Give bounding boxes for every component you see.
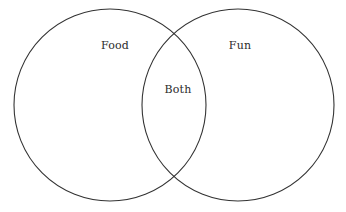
venn-diagram-canvas bbox=[0, 0, 346, 212]
venn-label-intersection: Both bbox=[164, 84, 191, 95]
venn-label-left: Food bbox=[101, 40, 129, 51]
venn-diagram: Food Fun Both bbox=[0, 0, 346, 212]
venn-label-right: Fun bbox=[229, 40, 251, 51]
